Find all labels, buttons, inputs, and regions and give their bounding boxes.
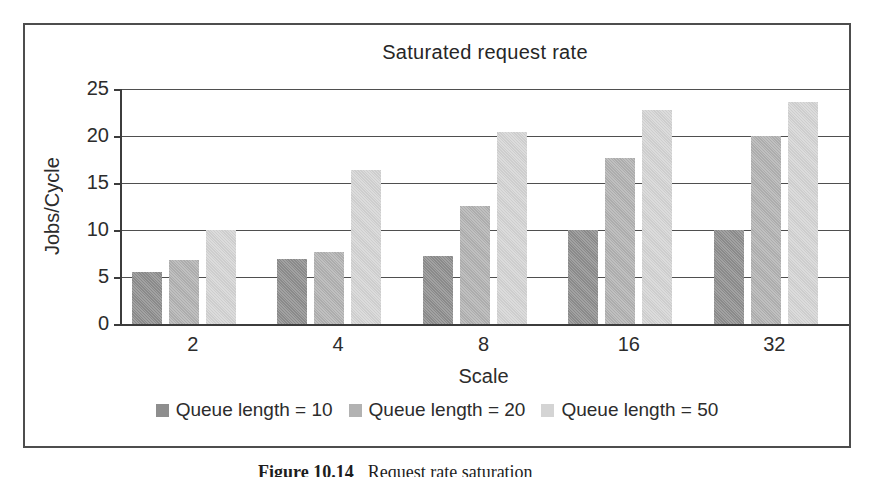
x-tick-label-4: 4 <box>265 333 410 356</box>
legend-swatch-icon <box>541 404 554 417</box>
y-tick-label-10: 10 <box>65 218 109 241</box>
chart-title: Saturated request rate <box>115 41 855 64</box>
bar-series3-cat-8 <box>497 132 527 324</box>
y-tick-label-5: 5 <box>65 265 109 288</box>
figure-caption-text: Request rate saturation <box>368 462 533 477</box>
gridline-y-15 <box>122 183 849 184</box>
figure-caption: Figure 10.14Request rate saturation <box>258 462 533 477</box>
bar-series1-cat-8 <box>423 256 453 324</box>
page: Saturated request rate Jobs/Cycle 051015… <box>0 0 873 477</box>
bar-series3-cat-32 <box>788 102 818 324</box>
plot-area <box>120 89 849 326</box>
y-tick-label-0: 0 <box>65 312 109 335</box>
x-tick-label-8: 8 <box>411 333 556 356</box>
legend-item-2: Queue length = 20 <box>349 399 526 421</box>
bar-series1-cat-16 <box>568 230 598 324</box>
legend-swatch-icon <box>156 404 169 417</box>
legend: Queue length = 10Queue length = 20Queue … <box>25 399 849 421</box>
y-tickmark-5 <box>114 277 122 279</box>
legend-item-1: Queue length = 10 <box>156 399 333 421</box>
y-tickmark-0 <box>114 324 122 326</box>
x-tick-label-32: 32 <box>702 333 847 356</box>
bar-series3-cat-4 <box>351 170 381 324</box>
y-axis-title: Jobs/Cycle <box>39 89 65 324</box>
bar-series2-cat-2 <box>169 260 199 324</box>
y-tickmark-25 <box>114 89 122 91</box>
legend-label: Queue length = 50 <box>561 399 718 421</box>
legend-item-3: Queue length = 50 <box>541 399 718 421</box>
bar-series3-cat-16 <box>642 110 672 324</box>
bar-series2-cat-8 <box>460 206 490 324</box>
gridline-y-25 <box>122 89 849 90</box>
y-tick-label-20: 20 <box>65 124 109 147</box>
bar-series1-cat-4 <box>277 259 307 324</box>
gridline-y-20 <box>122 136 849 137</box>
x-tick-label-16: 16 <box>556 333 701 356</box>
y-tickmark-15 <box>114 183 122 185</box>
x-tick-label-2: 2 <box>120 333 265 356</box>
y-tick-label-25: 25 <box>65 77 109 100</box>
bar-series1-cat-32 <box>714 230 744 324</box>
bar-series2-cat-4 <box>314 252 344 324</box>
legend-label: Queue length = 20 <box>369 399 526 421</box>
y-tickmark-20 <box>114 136 122 138</box>
legend-swatch-icon <box>349 404 362 417</box>
bar-series3-cat-2 <box>206 230 236 324</box>
x-axis-labels: 2481632 <box>120 333 847 357</box>
figure-caption-label: Figure 10.14 <box>258 462 354 477</box>
x-axis-title: Scale <box>120 365 847 388</box>
bar-series2-cat-32 <box>751 136 781 324</box>
legend-label: Queue length = 10 <box>176 399 333 421</box>
bar-series1-cat-2 <box>132 272 162 324</box>
figure-frame: Saturated request rate Jobs/Cycle 051015… <box>23 23 851 448</box>
y-tick-label-15: 15 <box>65 171 109 194</box>
y-tickmark-10 <box>114 230 122 232</box>
bar-series2-cat-16 <box>605 158 635 324</box>
